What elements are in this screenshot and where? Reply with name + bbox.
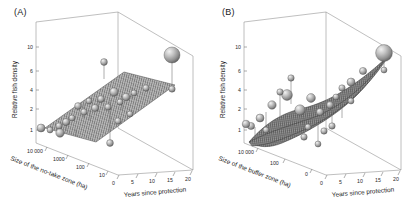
panel-b-x-right-axis-title: Years since protection xyxy=(331,186,395,199)
x-left-tick: 10 xyxy=(99,172,105,178)
y-tick: 2 xyxy=(30,106,33,112)
y-tick: 10 xyxy=(235,44,241,50)
panel-b: (B) xyxy=(208,0,417,218)
panel-b-x-left-ticks xyxy=(256,148,312,173)
panel-b-plot: 10 6 4 2 1 Relative fish density xyxy=(208,0,417,218)
x-right-tick: 15 xyxy=(167,177,173,183)
y-tick: 1 xyxy=(238,127,241,133)
panel-a-y-ticklabels: 10 6 4 2 1 xyxy=(27,44,33,133)
x-left-tick: 10 000 xyxy=(238,149,254,155)
x-right-tick: 20 xyxy=(185,176,191,182)
x-right-tick: 15 xyxy=(375,177,381,183)
panel-b-x-left-ticklabels: 10 000 100 0 xyxy=(238,149,308,177)
panel-b-y-ticklabels: 10 6 4 2 1 xyxy=(235,44,241,133)
panel-a-x-left-ticklabels: 10 000 1000 100 10 xyxy=(27,148,105,178)
y-tick: 6 xyxy=(238,68,241,74)
panel-b-datapoints xyxy=(242,45,392,147)
x-right-tick: 0 xyxy=(112,180,115,186)
x-left-tick: 100 xyxy=(76,164,85,170)
y-tick: 2 xyxy=(238,106,241,112)
x-right-tick: 10 xyxy=(357,178,363,184)
y-tick: 6 xyxy=(30,68,33,74)
x-left-tick: 1000 xyxy=(53,156,65,162)
panel-b-y-ticks xyxy=(244,47,247,130)
x-right-tick: 20 xyxy=(393,176,399,182)
y-tick: 1 xyxy=(30,127,33,133)
y-tick: 4 xyxy=(30,87,33,93)
x-right-tick: 5 xyxy=(131,179,134,185)
panel-a-y-axis-title: Relative fish density xyxy=(11,60,19,118)
x-right-tick: 10 xyxy=(149,178,155,184)
y-tick: 4 xyxy=(238,87,241,93)
panel-b-y-axis-title: Relative fish density xyxy=(219,60,227,118)
panel-a-plot: 10 6 4 2 1 Relative fish density xyxy=(0,0,209,218)
x-right-tick: 0 xyxy=(320,180,323,186)
figure-container: (A) xyxy=(0,0,417,218)
x-right-tick: 5 xyxy=(339,179,342,185)
panel-b-x-left-axis-title: Size of the buffer zone (ha) xyxy=(217,154,292,189)
panel-a-y-ticks xyxy=(36,47,39,130)
panel-b-axes-box xyxy=(244,12,401,175)
x-left-tick: 0 xyxy=(305,171,308,177)
x-left-tick: 100 xyxy=(270,160,279,166)
y-tick: 10 xyxy=(27,44,33,50)
panel-b-x-right-ticklabels: 0 5 10 15 20 xyxy=(320,176,399,186)
panel-a: (A) xyxy=(0,0,209,218)
panel-a-x-right-ticklabels: 0 5 10 15 20 xyxy=(112,176,191,186)
panel-a-x-left-axis-title: Size of the no-take zone (ha) xyxy=(9,154,88,191)
panel-a-x-right-axis-title: Years since protection xyxy=(123,186,187,199)
x-left-tick: 10 000 xyxy=(27,148,43,154)
